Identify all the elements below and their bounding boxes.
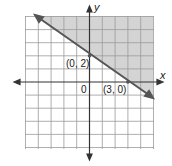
origin-label: 0 (81, 85, 87, 95)
coordinate-plane (0, 0, 172, 166)
y-axis-label: y (94, 2, 100, 13)
point-label-3-0: (3, 0) (103, 85, 126, 95)
x-axis-label: x (160, 70, 166, 81)
point-3-0 (126, 80, 130, 84)
point-label-0-2: (0, 2) (66, 59, 89, 69)
